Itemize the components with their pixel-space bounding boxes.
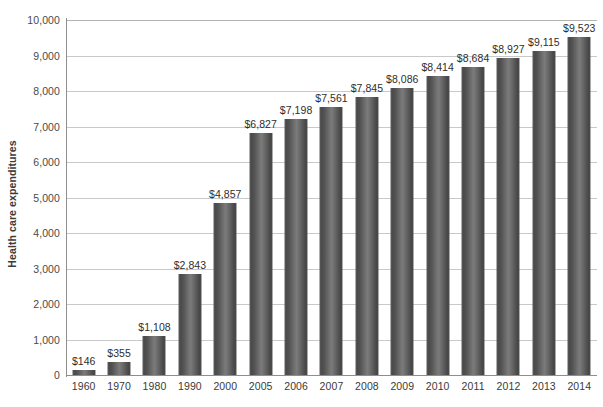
x-axis-line [66,375,597,376]
y-axis-tick-label: 4,000 [33,227,60,239]
bar-value-label: $9,523 [563,22,595,34]
bar-value-label: $7,845 [351,82,383,94]
x-axis-tick-label: 2011 [462,380,485,392]
bar[interactable] [426,76,449,375]
bar[interactable] [72,370,95,375]
bar[interactable] [320,107,343,375]
bars-layer: $146$355$1,108$2,843$4,857$6,827$7,198$7… [66,0,597,375]
y-axis-tick-label: 7,000 [33,121,60,133]
x-axis-tick-label: 1970 [107,380,131,392]
bar-value-label: $8,684 [457,52,489,64]
bar[interactable] [214,203,237,375]
bar-group[interactable]: $8,927 [491,0,526,375]
bar-group[interactable]: $355 [101,0,136,375]
bar-value-label: $1,108 [138,321,170,333]
y-axis-tick-label: 9,000 [33,50,60,62]
bar-value-label: $146 [72,355,96,367]
bar-group[interactable]: $8,684 [455,0,490,375]
x-axis-tick-label: 2007 [320,380,344,392]
x-axis-tick-label: 2012 [497,380,521,392]
bar-group[interactable]: $4,857 [208,0,243,375]
bar-value-label: $355 [107,347,131,359]
bar-value-label: $2,843 [174,259,206,271]
bar[interactable] [355,97,378,375]
x-axis-tick-labels: 1960197019801990200020052006200720082009… [66,380,597,402]
x-axis-tick-label: 2014 [567,380,591,392]
bar[interactable] [497,58,520,375]
y-axis-title-text: Health care expenditures [6,140,18,267]
y-axis-tick-label: 6,000 [33,156,60,168]
x-axis-tick-label: 1990 [178,380,202,392]
bar-group[interactable]: $6,827 [243,0,278,375]
bar-chart: Health care expenditures 01,0002,0003,00… [0,0,603,407]
x-axis-tick-label: 2008 [355,380,379,392]
x-axis-tick-label: 2010 [426,380,450,392]
bar-group[interactable]: $7,845 [349,0,384,375]
x-axis-tick-label: 1980 [143,380,167,392]
y-axis-tick-label: 8,000 [33,85,60,97]
bar[interactable] [462,67,485,375]
bar[interactable] [249,133,272,375]
y-axis-tick-label: 0 [54,369,60,381]
bar-group[interactable]: $1,108 [137,0,172,375]
bar[interactable] [285,119,308,375]
bar-value-label: $9,115 [528,36,560,48]
y-axis-tick-label: 2,000 [33,298,60,310]
bar-group[interactable]: $7,198 [278,0,313,375]
y-axis-tick-label: 1,000 [33,334,60,346]
x-axis-tick-label: 2006 [284,380,308,392]
bar-group[interactable]: $7,561 [314,0,349,375]
bar-value-label: $8,086 [386,73,418,85]
bar-group[interactable]: $146 [66,0,101,375]
bar-value-label: $7,561 [315,92,347,104]
bar[interactable] [568,37,591,375]
bar[interactable] [532,51,555,375]
x-axis-tick-label: 2000 [213,380,237,392]
bar[interactable] [108,362,131,375]
bar-value-label: $7,198 [280,104,312,116]
bar[interactable] [391,88,414,375]
y-axis-tick-label: 3,000 [33,263,60,275]
bar-group[interactable]: $9,115 [526,0,561,375]
x-axis-tick-label: 2005 [249,380,273,392]
x-axis-tick-label: 1960 [72,380,96,392]
bar-group[interactable]: $8,086 [385,0,420,375]
bar[interactable] [178,274,201,375]
bar[interactable] [143,336,166,375]
y-axis-tick-label: 5,000 [33,192,60,204]
y-axis-tick-label: 10,000 [27,14,60,26]
x-axis-tick-label: 2013 [532,380,556,392]
bar-value-label: $4,857 [209,188,241,200]
y-axis-tick-labels: 01,0002,0003,0004,0005,0006,0007,0008,00… [18,0,64,407]
bar-value-label: $8,414 [421,61,453,73]
x-axis-tick-label: 2009 [390,380,414,392]
bar-group[interactable]: $9,523 [562,0,597,375]
bar-group[interactable]: $2,843 [172,0,207,375]
bar-value-label: $6,827 [244,118,276,130]
bar-group[interactable]: $8,414 [420,0,455,375]
bar-value-label: $8,927 [492,43,524,55]
